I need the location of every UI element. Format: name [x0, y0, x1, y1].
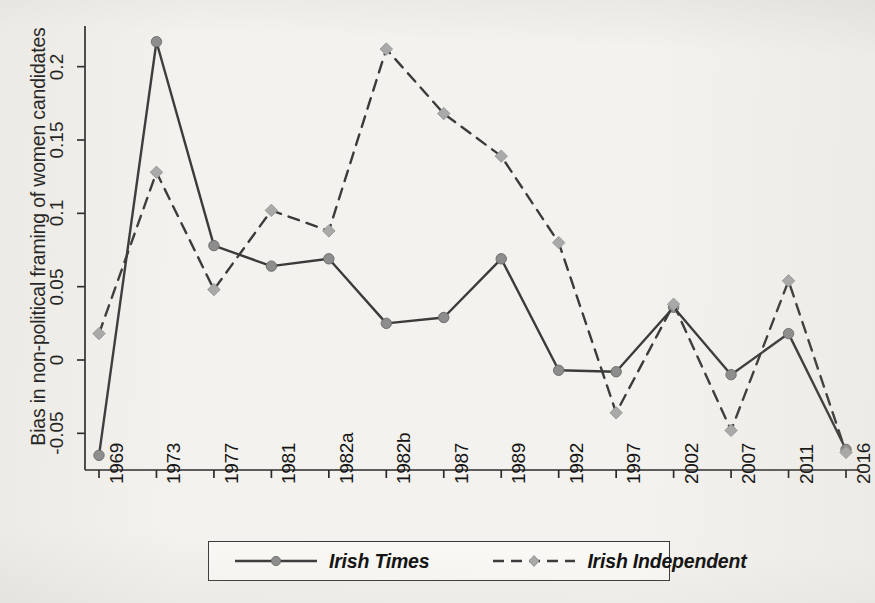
data-point	[265, 204, 277, 216]
y-tick-label: 0	[46, 325, 68, 395]
data-point	[610, 407, 622, 419]
data-point	[496, 254, 506, 264]
x-tick-label: 1992	[566, 443, 588, 484]
y-tick-label: 0.2	[46, 32, 68, 102]
x-tick-label: 2002	[681, 443, 703, 484]
plot-area	[0, 0, 875, 603]
data-point	[150, 166, 162, 178]
series-irish-independent	[93, 43, 852, 459]
x-tick-label: 1981	[278, 443, 300, 484]
x-tick-label: 1969	[106, 443, 128, 484]
data-point	[93, 327, 105, 339]
data-point	[381, 318, 391, 328]
x-tick-label: 2016	[853, 443, 875, 484]
x-tick-label: 2007	[738, 443, 760, 484]
data-point	[725, 424, 737, 436]
legend-swatch-solid-line-icon	[233, 551, 319, 571]
y-axis-ticks	[77, 67, 85, 434]
x-tick-label: 2011	[796, 444, 818, 484]
y-tick-label: -0.05	[46, 398, 68, 468]
x-tick-label: 1987	[451, 443, 473, 484]
data-point	[611, 367, 621, 377]
data-point	[94, 450, 104, 460]
data-point	[266, 261, 276, 271]
series-irish-times	[94, 37, 851, 461]
y-tick-label: 0.15	[46, 105, 68, 175]
axes	[85, 26, 860, 470]
legend-item-irish-times[interactable]: Irish Times	[209, 542, 429, 580]
x-tick-label: 1982a	[336, 433, 358, 484]
x-tick-label: 1977	[221, 443, 243, 484]
legend-label-irish-times: Irish Times	[329, 550, 429, 573]
legend-item-irish-independent[interactable]: Irish Independent	[467, 542, 746, 580]
data-point	[209, 240, 219, 250]
y-tick-label: 0.1	[46, 178, 68, 248]
data-point	[151, 37, 161, 47]
data-point	[553, 365, 563, 375]
x-tick-label: 1989	[508, 443, 530, 484]
data-point	[439, 312, 449, 322]
data-point	[782, 275, 794, 287]
legend-swatch-dashed-line-icon	[491, 551, 577, 571]
x-tick-label: 1982b	[393, 433, 415, 484]
line-chart-svg	[0, 0, 875, 603]
y-tick-label: 0.05	[46, 252, 68, 322]
legend-label-irish-independent: Irish Independent	[587, 550, 746, 573]
data-point	[323, 225, 335, 237]
data-point	[783, 328, 793, 338]
data-point	[324, 254, 334, 264]
x-tick-label: 1997	[623, 443, 645, 484]
data-point	[726, 369, 736, 379]
chart-legend: Irish Times Irish Independent	[208, 541, 670, 581]
chart-figure: Bias in non-political framing of women c…	[0, 0, 875, 603]
x-tick-label: 1973	[163, 443, 185, 484]
data-point	[552, 236, 564, 248]
